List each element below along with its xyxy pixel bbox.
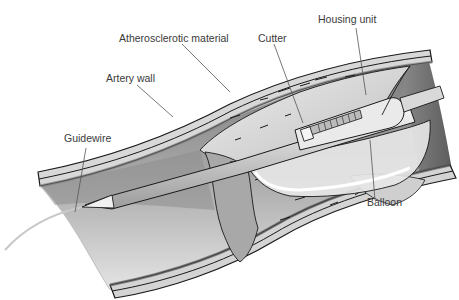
leader-artery-wall	[137, 85, 173, 117]
label-housing-unit: Housing unit	[318, 14, 376, 25]
atherectomy-diagram	[0, 0, 459, 300]
label-balloon: Balloon	[367, 197, 402, 208]
leader-atherosclerotic-material	[182, 44, 230, 92]
label-artery-wall: Artery wall	[106, 73, 155, 84]
label-guidewire: Guidewire	[64, 133, 111, 144]
label-cutter: Cutter	[258, 33, 287, 44]
label-atherosclerotic-material: Atherosclerotic material	[119, 33, 229, 44]
